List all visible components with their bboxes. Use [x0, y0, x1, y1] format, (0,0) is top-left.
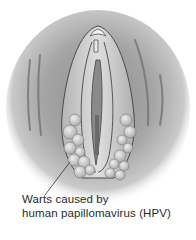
warts-label-line2: human papillomavirus (HPV) — [22, 206, 171, 220]
warts-label-line1: Warts caused by — [22, 192, 171, 206]
clitoris — [94, 40, 98, 52]
warts-label: Warts caused by human papillomavirus (HP… — [22, 192, 171, 220]
